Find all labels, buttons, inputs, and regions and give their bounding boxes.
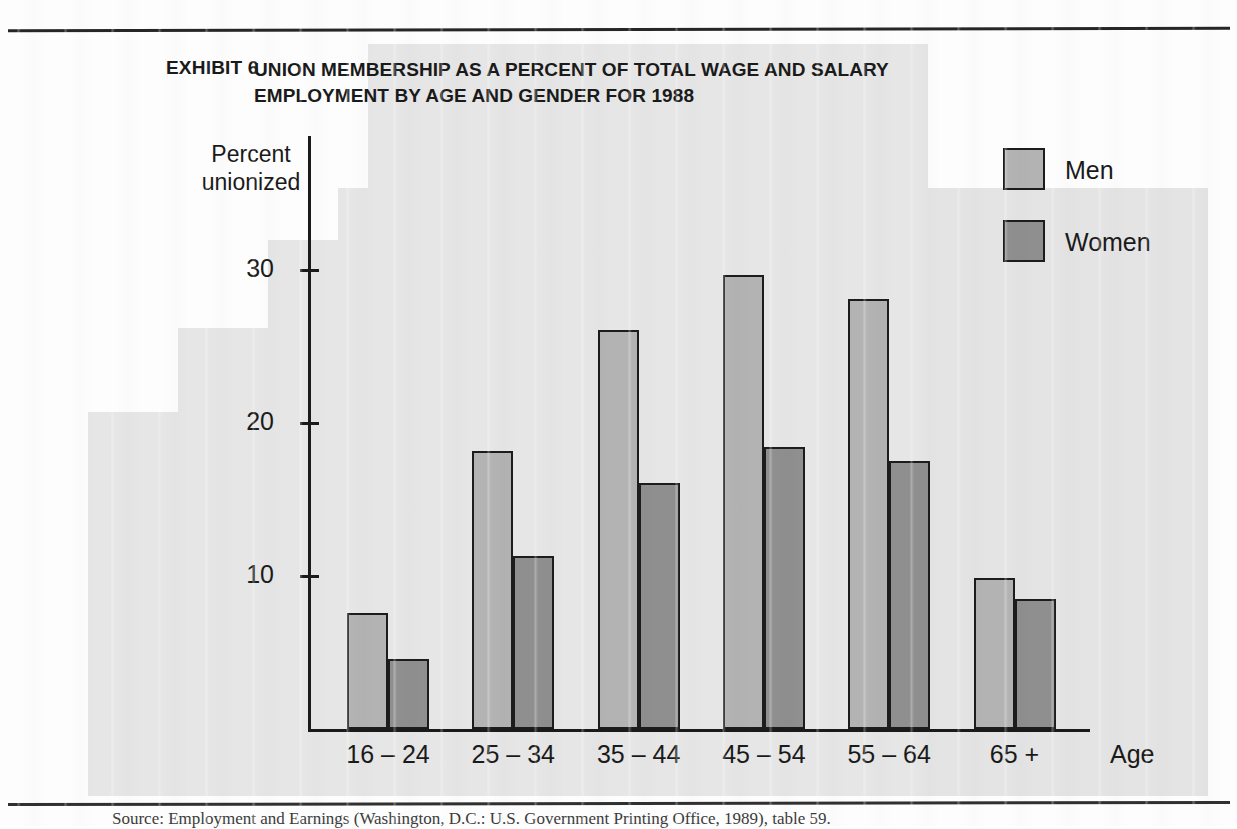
- bar-men-4: [723, 275, 764, 729]
- bar-men-3: [598, 330, 639, 729]
- x-axis-category-label: 45 – 54: [699, 740, 829, 769]
- x-axis-category-label: 16 – 24: [323, 740, 453, 769]
- bar-women-3: [639, 483, 680, 729]
- y-axis-tick: [300, 422, 319, 425]
- y-axis-title: Percent unionized: [196, 140, 306, 196]
- source-caption: Source: Employment and Earnings (Washing…: [112, 809, 1142, 829]
- legend-swatch-men: [1003, 148, 1045, 190]
- x-axis-line: [308, 729, 1090, 732]
- y-axis-title-line-2: unionized: [196, 168, 306, 196]
- bar-women-5: [889, 461, 930, 729]
- y-axis-tick-label: 10: [214, 562, 274, 587]
- x-axis-category-label: 35 – 44: [574, 740, 704, 769]
- bar-men-6: [974, 578, 1015, 729]
- bar-men-1: [347, 613, 388, 729]
- legend-label-men: Men: [1065, 156, 1114, 185]
- x-axis-title: Age: [1110, 740, 1154, 769]
- bar-women-4: [764, 447, 805, 729]
- y-axis-title-line-1: Percent: [196, 140, 306, 168]
- y-axis-tick: [300, 269, 319, 272]
- legend-swatch-women: [1003, 220, 1045, 262]
- y-axis-tick-label: 20: [214, 409, 274, 434]
- bar-women-1: [388, 659, 429, 729]
- bar-men-5: [848, 299, 889, 729]
- bar-women-2: [513, 556, 554, 729]
- legend-label-women: Women: [1065, 228, 1151, 257]
- y-axis-tick: [300, 575, 319, 578]
- x-axis-category-label: 55 – 64: [824, 740, 954, 769]
- y-axis-tick-label: 30: [214, 256, 274, 281]
- x-axis-category-label: 25 – 34: [448, 740, 578, 769]
- bar-men-2: [472, 451, 513, 729]
- bar-women-6: [1015, 599, 1056, 729]
- x-axis-category-label: 65 +: [950, 740, 1080, 769]
- y-axis-line: [308, 136, 311, 732]
